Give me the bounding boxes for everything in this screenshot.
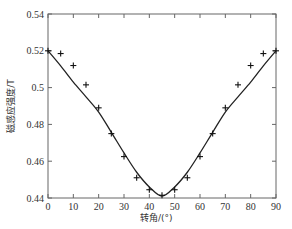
plus-marker — [159, 192, 165, 198]
plus-marker — [121, 154, 127, 160]
y-tick-label: 0.54 — [27, 9, 45, 20]
chart: 0102030405060708090 0.440.460.480.50.520… — [0, 0, 292, 229]
y-tick-label: 0.44 — [27, 193, 45, 204]
x-tick-label: 40 — [144, 201, 154, 212]
y-tick-label: 0.46 — [27, 156, 45, 167]
x-tick-label: 30 — [119, 201, 129, 212]
y-axis-title: 磁感应强度/T — [5, 79, 16, 133]
plot-frame — [48, 14, 276, 198]
simulated-curve — [48, 51, 276, 196]
y-tick-label: 0.52 — [27, 45, 45, 56]
plus-marker — [146, 187, 152, 193]
x-tick-label: 60 — [195, 201, 205, 212]
y-axis: 0.440.460.480.50.520.54 — [27, 9, 277, 204]
plus-marker — [70, 63, 76, 69]
plus-marker — [197, 154, 203, 160]
x-tick-label: 80 — [246, 201, 256, 212]
plus-marker — [235, 82, 241, 88]
x-tick-label: 70 — [220, 201, 230, 212]
y-tick-label: 0.48 — [27, 119, 45, 130]
measured-markers — [45, 48, 279, 198]
x-tick-label: 90 — [271, 201, 281, 212]
plus-marker — [260, 51, 266, 57]
plus-marker — [83, 82, 89, 88]
plus-marker — [172, 187, 178, 193]
x-tick-label: 10 — [68, 201, 78, 212]
y-tick-label: 0.5 — [32, 82, 45, 93]
x-axis: 0102030405060708090 — [46, 14, 282, 212]
x-tick-label: 20 — [94, 201, 104, 212]
x-tick-label: 50 — [170, 201, 180, 212]
x-axis-title: 转角/(°) — [140, 212, 173, 223]
plus-marker — [248, 63, 254, 69]
plus-marker — [58, 51, 64, 57]
x-tick-label: 0 — [46, 201, 51, 212]
